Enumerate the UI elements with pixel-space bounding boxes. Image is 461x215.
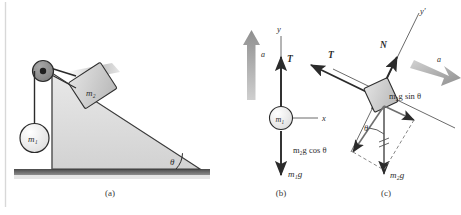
acceleration-arrow [243, 30, 260, 100]
label-acceleration-b: a [261, 50, 265, 59]
label-normal: N [379, 40, 388, 50]
label-weight-parallel: m₂g sin θ [389, 91, 421, 101]
label-mass1-b: m₁ [276, 115, 285, 124]
label-mass2: m₂ [86, 88, 96, 98]
label-angle-theta: θ [170, 157, 175, 167]
ground-surface [14, 169, 210, 179]
panel-b-fbd-mass1: a y x T m₁ m₁g (b) [243, 24, 326, 198]
label-weight-perpendicular: m₂g cos θ [293, 145, 326, 155]
label-axis-y: y [276, 24, 281, 34]
vector-weight-perpendicular [353, 106, 384, 152]
panel-c-fbd-mass2: a y′ N T m₂g [293, 6, 461, 198]
vector-weight-parallel [384, 106, 414, 120]
label-tension-b: T [287, 54, 294, 64]
caption-a: (a) [105, 188, 115, 198]
caption-c: (c) [381, 188, 391, 198]
label-acceleration-c: a [437, 55, 441, 64]
label-axis-y-prime: y′ [419, 6, 426, 16]
label-mass1: m₁ [28, 134, 38, 144]
label-tension-c: T [328, 50, 335, 60]
caption-b: (b) [276, 188, 287, 198]
acceleration-arrow-c [410, 60, 461, 86]
label-axis-x: x [321, 113, 326, 123]
label-angle-theta-c: θ [364, 123, 368, 133]
physics-figure: m₂ m₁ θ (a) [0, 0, 461, 215]
label-weight-b: m₁g [288, 169, 303, 179]
angle-arc-c [369, 128, 384, 134]
figure-canvas: m₂ m₁ θ (a) [0, 0, 461, 215]
pulley [33, 61, 54, 82]
panel-a-incline-system: m₂ m₁ θ (a) [14, 61, 210, 199]
label-weight-c: m₂g [390, 170, 405, 180]
